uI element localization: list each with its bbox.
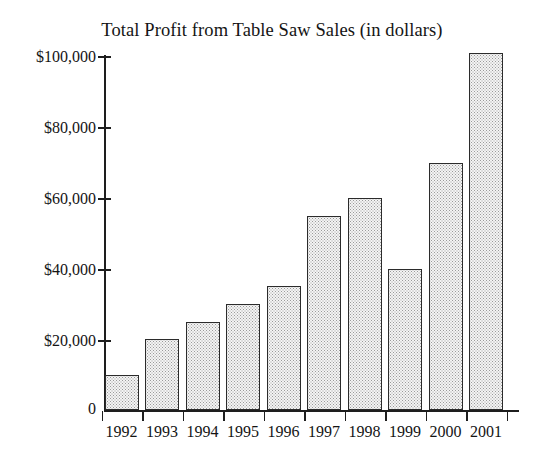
- bar-1998: [348, 198, 382, 410]
- bar-1992: [105, 375, 139, 410]
- x-tick-1998: [345, 411, 347, 421]
- x-tick-2001: [466, 411, 468, 421]
- x-tick-2000: [426, 411, 428, 421]
- x-tick-label-1992: 1992: [106, 423, 138, 441]
- plot-area: [104, 57, 518, 410]
- y-tick-label-60000: $60,000: [4, 190, 96, 208]
- bar-2000: [429, 163, 463, 410]
- bar-1995: [226, 304, 260, 410]
- bar-1994: [186, 322, 220, 410]
- y-tick-label-20000: $20,000: [4, 332, 96, 350]
- x-tick-label-1995: 1995: [227, 423, 259, 441]
- x-tick-label-1996: 1996: [268, 423, 300, 441]
- bar-1997: [307, 216, 341, 410]
- x-tick-label-2001: 2001: [470, 423, 502, 441]
- y-axis-tick-labels: $100,000 $80,000 $60,000 $40,000 $20,000…: [0, 0, 96, 458]
- y-tick-label-80000: $80,000: [4, 119, 96, 137]
- x-tick-1997: [304, 411, 306, 421]
- bar-1993: [145, 339, 179, 410]
- x-tick-end: [507, 411, 509, 421]
- x-tick-label-1998: 1998: [349, 423, 381, 441]
- x-tick-1999: [385, 411, 387, 421]
- y-tick-label-100000: $100,000: [4, 48, 96, 66]
- bar-2001: [469, 53, 503, 410]
- y-tick-label-0: 0: [4, 400, 96, 418]
- x-tick-1994: [183, 411, 185, 421]
- x-tick-1993: [142, 411, 144, 421]
- y-tick-label-40000: $40,000: [4, 261, 96, 279]
- x-tick-1992: [102, 411, 104, 421]
- bar-1999: [388, 269, 422, 410]
- x-tick-label-2000: 2000: [430, 423, 462, 441]
- x-tick-1996: [264, 411, 266, 421]
- x-tick-label-1993: 1993: [146, 423, 178, 441]
- bar-chart-figure: Total Profit from Table Saw Sales (in do…: [0, 0, 544, 458]
- bar-1996: [267, 286, 301, 410]
- x-tick-label-1997: 1997: [308, 423, 340, 441]
- x-tick-label-1999: 1999: [389, 423, 421, 441]
- x-tick-1995: [223, 411, 225, 421]
- x-tick-label-1994: 1994: [187, 423, 219, 441]
- x-axis-line: [104, 410, 519, 412]
